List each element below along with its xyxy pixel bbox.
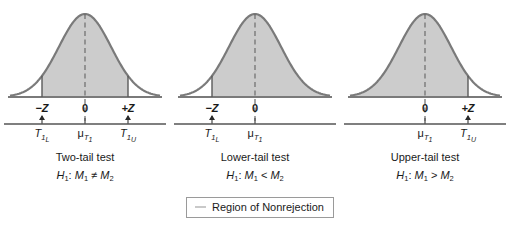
z-tick-label: 0	[422, 103, 428, 114]
legend-box: Region of Nonrejection	[186, 197, 334, 218]
panel-title: Two-tail test	[0, 150, 170, 165]
panel-title: Upper-tail test	[340, 150, 510, 165]
panel-title: Lower-tail test	[170, 150, 340, 165]
t-tick-label: μT1	[418, 128, 433, 139]
panel-hypothesis: H1: M1 < M2	[170, 168, 340, 183]
critical-value-arrow	[125, 115, 131, 120]
z-tick-label: −Z	[35, 103, 48, 114]
panel-lower-tail: −Z0T1LμT1Lower-tail testH1: M1 < M2	[170, 0, 340, 190]
panel-caption: Upper-tail testH1: M1 > M2	[340, 150, 510, 183]
panel-caption: Lower-tail testH1: M1 < M2	[170, 150, 340, 183]
legend-swatch-icon	[195, 206, 206, 208]
t-tick-label: μT1	[248, 128, 263, 139]
panel-caption: Two-tail testH1: M1 ≠ M2	[0, 150, 170, 183]
z-tick-label: −Z	[205, 103, 218, 114]
critical-value-arrow	[465, 115, 471, 120]
t-tick-label: T1L	[205, 128, 220, 139]
t-tick-label: T1U	[460, 128, 476, 139]
t-tick-label: μT1	[78, 128, 93, 139]
panel-hypothesis: H1: M1 > M2	[340, 168, 510, 183]
z-tick-label: +Z	[461, 103, 474, 114]
critical-value-arrow	[39, 115, 45, 120]
distribution-panels: −Z0+ZT1LμT1T1UTwo-tail testH1: M1 ≠ M2−Z…	[0, 0, 510, 190]
panel-two-tail: −Z0+ZT1LμT1T1UTwo-tail testH1: M1 ≠ M2	[0, 0, 170, 190]
z-tick-label: 0	[252, 103, 258, 114]
panel-hypothesis: H1: M1 ≠ M2	[0, 168, 170, 183]
z-tick-label: +Z	[121, 103, 134, 114]
legend-label: Region of Nonrejection	[212, 201, 324, 213]
z-tick-label: 0	[82, 103, 88, 114]
panel-upper-tail: 0+ZμT1T1UUpper-tail testH1: M1 > M2	[340, 0, 510, 190]
t-tick-label: T1U	[120, 128, 136, 139]
t-tick-label: T1L	[35, 128, 50, 139]
critical-value-arrow	[209, 115, 215, 120]
